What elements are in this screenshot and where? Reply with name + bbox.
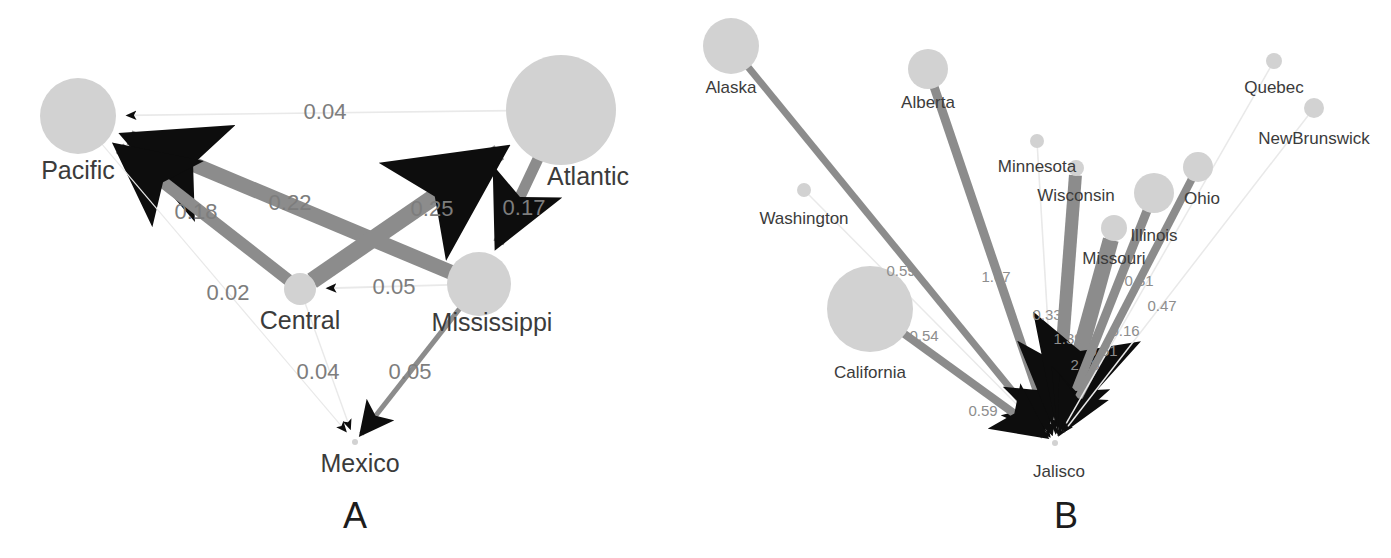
edge-weight-label: 0.22 (269, 190, 312, 215)
network-node[interactable] (284, 273, 316, 305)
node-name-label: Missouri (1082, 249, 1145, 268)
node-name-label: NewBrunswick (1258, 129, 1370, 148)
edge-weight-label: 0.05 (389, 359, 432, 384)
edge-weight-label: 0.61 (1088, 342, 1117, 359)
panel-letter-a: A (343, 495, 367, 536)
edge-weight-label: 0.47 (1147, 297, 1176, 314)
panel-b-network: 0.591.070.540.590.331.392.280.610.160.31… (696, 0, 1391, 558)
edge-weight-label: 0.05 (373, 274, 416, 299)
node-name-label: Mississippi (432, 308, 553, 336)
node-name-label: Mexico (320, 449, 399, 477)
edge-weight-label: 1.39 (1053, 330, 1082, 347)
network-node[interactable] (1030, 134, 1044, 148)
network-node[interactable] (1266, 53, 1282, 69)
network-node[interactable] (506, 55, 616, 165)
node-name-label: Jalisco (1033, 462, 1085, 481)
network-node[interactable] (1052, 440, 1058, 446)
node-name-label: Quebec (1244, 78, 1304, 97)
node-name-label: Wisconsin (1037, 186, 1114, 205)
edge-weight-label: 0.33 (1032, 306, 1061, 323)
network-node[interactable] (1304, 98, 1324, 118)
edge-weight-label: 0.31 (1124, 272, 1153, 289)
node-name-label: Alberta (901, 93, 955, 112)
node-name-label: Minnesota (998, 157, 1077, 176)
edge-weight-label: 0.18 (175, 199, 218, 224)
node-name-label: Central (260, 306, 341, 334)
panel-b-edges (747, 66, 1308, 435)
node-name-label: Atlantic (547, 162, 629, 190)
network-node[interactable] (352, 439, 358, 445)
edge-weight-label: 1.07 (981, 268, 1010, 285)
panel-b-nodes (703, 18, 1324, 446)
node-name-label: Pacific (41, 156, 115, 184)
network-node[interactable] (908, 49, 948, 89)
node-name-label: Illinois (1130, 226, 1177, 245)
network-node[interactable] (703, 18, 759, 74)
panel-a-svg: 0.040.220.180.250.170.020.050.040.05 Pac… (0, 0, 696, 558)
network-node[interactable] (1183, 152, 1213, 182)
node-name-label: California (834, 363, 906, 382)
node-name-label: Ohio (1184, 189, 1220, 208)
edge-weight-label: 0.04 (297, 359, 340, 384)
node-name-label: Alaska (705, 78, 757, 97)
edge-weight-label: 0.25 (411, 196, 454, 221)
edge-weight-label: 0.59 (968, 402, 997, 419)
edge-weight-label: 0.17 (503, 195, 546, 220)
network-node[interactable] (1101, 215, 1127, 241)
network-figure: 0.040.220.180.250.170.020.050.040.05 Pac… (0, 0, 1391, 558)
node-name-label: Washington (759, 209, 848, 228)
edge-weight-label: 0.16 (1110, 322, 1139, 339)
edge-weight-label: 0.59 (886, 262, 915, 279)
network-node[interactable] (1134, 173, 1174, 213)
edge-weight-label: 0.04 (304, 99, 347, 124)
panel-letter-b: B (1054, 495, 1078, 536)
network-node[interactable] (40, 78, 116, 154)
edge-weight-label: 0.02 (207, 280, 250, 305)
edge-weight-label: 0.54 (909, 327, 938, 344)
network-node[interactable] (447, 252, 511, 316)
network-node[interactable] (797, 183, 811, 197)
panel-b-svg: 0.591.070.540.590.331.392.280.610.160.31… (696, 0, 1391, 558)
panel-a-network: 0.040.220.180.250.170.020.050.040.05 Pac… (0, 0, 696, 558)
